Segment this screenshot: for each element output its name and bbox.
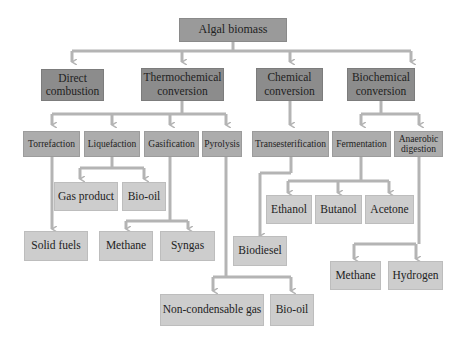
node-label: Thermochemical conversion — [142, 71, 223, 97]
node-methane-anaerobic: Methane — [330, 261, 381, 290]
node-label: Hydrogen — [393, 269, 439, 282]
node-label: Fermentation — [336, 139, 387, 150]
node-label: Non-condensable gas — [163, 303, 262, 316]
node-label: Biodiesel — [238, 244, 281, 257]
node-label: Ethanol — [271, 203, 307, 216]
node-label: Chemical conversion — [257, 71, 322, 97]
node-fermentation: Fermentation — [332, 131, 391, 157]
node-label: Bio-oil — [128, 190, 161, 203]
node-hydrogen: Hydrogen — [388, 261, 443, 290]
node-label: Solid fuels — [31, 239, 81, 252]
node-chemical-conversion: Chemical conversion — [256, 68, 323, 101]
node-syngas: Syngas — [160, 231, 215, 261]
node-non-condensable-gas: Non-condensable gas — [160, 294, 264, 326]
node-label: Biochemical conversion — [348, 71, 414, 97]
node-label: Methane — [335, 269, 375, 282]
node-solid-fuels: Solid fuels — [24, 231, 88, 261]
node-gasification: Gasification — [144, 131, 199, 157]
node-biochemical-conversion: Biochemical conversion — [347, 68, 415, 101]
node-label: Liquefaction — [88, 139, 137, 150]
node-direct-combustion: Direct combustion — [41, 69, 104, 101]
node-torrefaction: Torrefaction — [23, 131, 80, 157]
node-label: Gas product — [58, 190, 114, 203]
node-acetone: Acetone — [365, 195, 414, 224]
connector-lines — [0, 0, 465, 342]
node-liquefaction: Liquefaction — [84, 131, 140, 157]
node-bio-oil-liquefaction: Bio-oil — [122, 182, 166, 211]
node-thermochemical-conversion: Thermochemical conversion — [141, 68, 224, 101]
node-methane-gasification: Methane — [99, 231, 153, 261]
node-label: Syngas — [171, 239, 204, 252]
node-label: Anaerobic digestion — [395, 134, 442, 155]
node-transesterification: Transesterification — [252, 131, 329, 157]
node-biodiesel: Biodiesel — [233, 236, 287, 266]
node-butanol: Butanol — [315, 195, 362, 224]
node-label: Acetone — [370, 203, 408, 216]
node-label: Torrefaction — [28, 139, 75, 150]
node-label: Bio-oil — [276, 303, 309, 316]
node-label: Algal biomass — [199, 23, 268, 37]
node-label: Transesterification — [255, 139, 326, 150]
node-label: Methane — [106, 239, 146, 252]
node-ethanol: Ethanol — [266, 195, 312, 224]
node-pyrolysis: Pyrolysis — [202, 131, 242, 157]
node-algal-biomass: Algal biomass — [179, 18, 287, 42]
node-label: Direct combustion — [42, 72, 103, 98]
node-label: Butanol — [320, 203, 356, 216]
node-bio-oil-pyrolysis: Bio-oil — [270, 294, 314, 326]
node-label: Gasification — [148, 139, 194, 150]
node-gas-product: Gas product — [54, 182, 118, 211]
node-anaerobic-digestion: Anaerobic digestion — [394, 131, 443, 157]
node-label: Pyrolysis — [204, 139, 239, 150]
